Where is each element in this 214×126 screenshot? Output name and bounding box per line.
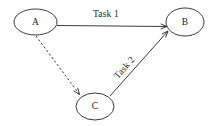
diagram-canvas: Task 1 Task 2 A B C bbox=[0, 0, 214, 126]
task-dependency-diagram: Task 1 Task 2 A B C bbox=[0, 0, 214, 126]
edge-a-to-c-dashed-line bbox=[36, 36, 80, 95]
edge-a-to-b[interactable]: Task 1 bbox=[57, 9, 167, 29]
edge-a-to-b-line bbox=[57, 26, 167, 27]
edge-label-task-2: Task 2 bbox=[112, 54, 137, 80]
edge-c-to-b[interactable]: Task 2 bbox=[110, 31, 168, 96]
node-c-label: C bbox=[92, 101, 98, 111]
edge-c-to-b-line bbox=[110, 31, 168, 96]
edge-label-task-1: Task 1 bbox=[93, 9, 119, 19]
node-a-label: A bbox=[32, 17, 39, 27]
edge-a-to-c-arrowhead-icon bbox=[74, 88, 80, 94]
node-a[interactable]: A bbox=[14, 9, 57, 35]
node-b[interactable]: B bbox=[166, 8, 204, 36]
node-b-label: B bbox=[182, 17, 188, 27]
edge-a-to-c[interactable] bbox=[36, 36, 80, 95]
node-c[interactable]: C bbox=[76, 93, 114, 120]
